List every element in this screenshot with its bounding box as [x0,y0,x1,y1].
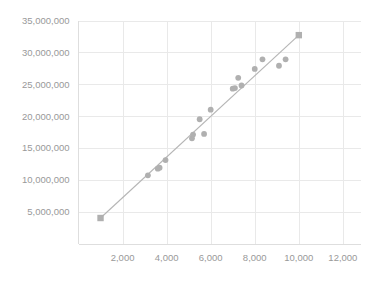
y-axis-tick-label: 35,000,000 [22,15,70,26]
y-tick-labels: 5,000,00010,000,00015,000,00020,000,0002… [22,15,70,217]
data-point-marker [163,157,169,163]
x-axis-tick-label: 8,000 [243,252,267,263]
scatter-chart: 5,000,00010,000,00015,000,00020,000,0002… [0,0,383,288]
x-axis-tick-label: 4,000 [155,252,179,263]
x-axis-tick-label: 10,000 [284,252,313,263]
x-axis-tick-label: 12,000 [328,252,357,263]
axis-lines [79,21,361,245]
x-axis-tick-label: 6,000 [199,252,223,263]
x-tick-labels: 2,0004,0006,0008,00010,00012,000 [111,252,358,263]
data-point-marker [283,56,289,62]
gridlines-horizontal [79,22,361,213]
data-point-marker [276,63,282,69]
data-point-marker [190,132,196,138]
data-point-marker [260,56,266,62]
data-point-marker [157,165,163,171]
y-axis-tick-label: 20,000,000 [22,111,70,122]
data-point-marker-square [97,215,103,221]
data-point-marker [239,83,245,89]
trendline [101,35,299,218]
data-point-marker [145,172,151,178]
chart-canvas: 5,000,00010,000,00015,000,00020,000,0002… [0,0,383,288]
y-axis-tick-label: 5,000,000 [27,206,69,217]
y-axis-tick-label: 25,000,000 [22,79,70,90]
data-point-marker [235,75,241,81]
data-point-marker [232,85,238,91]
y-axis-tick-label: 10,000,000 [22,174,70,185]
data-point-marker [252,66,258,72]
data-point-marker [208,107,214,113]
y-axis-tick-label: 15,000,000 [22,142,70,153]
y-axis-tick-label: 30,000,000 [22,47,70,58]
data-point-marker-square [296,32,302,38]
gridlines-vertical [124,21,344,244]
data-point-marker [201,131,207,137]
data-point-marker [197,116,203,122]
x-axis-tick-label: 2,000 [111,252,135,263]
trend-line [101,35,299,218]
